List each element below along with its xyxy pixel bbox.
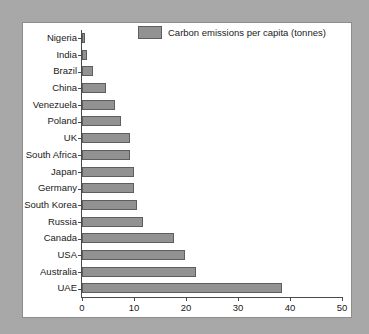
bar-china — [82, 83, 106, 93]
category-label-uk: UK — [64, 131, 77, 144]
category-label-south-africa: South Africa — [26, 148, 77, 161]
bar-russia — [82, 217, 143, 227]
bar-row: Nigeria — [82, 30, 342, 47]
category-label-japan: Japan — [51, 165, 77, 178]
x-axis-tick-label: 50 — [337, 302, 348, 313]
bar-usa — [82, 250, 185, 260]
bar-row: Japan — [82, 164, 342, 181]
bar-row: South Korea — [82, 197, 342, 214]
bar-india — [82, 50, 87, 60]
bar-canada — [82, 233, 174, 243]
bar-nigeria — [82, 33, 85, 43]
category-label-south-korea: South Korea — [24, 198, 77, 211]
category-label-poland: Poland — [47, 114, 77, 127]
x-axis-tick — [186, 297, 187, 301]
bar-row: Russia — [82, 214, 342, 231]
x-axis-tick — [290, 297, 291, 301]
bar-poland — [82, 116, 121, 126]
bar-germany — [82, 183, 134, 193]
bar-row: Germany — [82, 180, 342, 197]
bar-row: USA — [82, 247, 342, 264]
category-label-canada: Canada — [44, 231, 77, 244]
bar-chart-figure: Carbon emissions per capita (tonnes) 010… — [22, 22, 352, 318]
category-label-nigeria: Nigeria — [47, 31, 77, 44]
x-axis-tick-label: 0 — [79, 302, 84, 313]
category-label-china: China — [52, 81, 77, 94]
bar-row: Canada — [82, 230, 342, 247]
x-axis-tick — [238, 297, 239, 301]
category-label-uae: UAE — [57, 281, 77, 294]
category-label-venezuela: Venezuela — [33, 98, 77, 111]
bar-venezuela — [82, 100, 115, 110]
bar-uk — [82, 133, 130, 143]
x-axis-tick — [134, 297, 135, 301]
x-axis-tick — [82, 297, 83, 301]
bar-row: Brazil — [82, 63, 342, 80]
bar-south-africa — [82, 150, 130, 160]
bar-row: UK — [82, 130, 342, 147]
category-label-germany: Germany — [38, 181, 77, 194]
category-label-russia: Russia — [48, 215, 77, 228]
bar-row: China — [82, 80, 342, 97]
bar-row: South Africa — [82, 147, 342, 164]
bar-row: Venezuela — [82, 97, 342, 114]
bar-row: Australia — [82, 264, 342, 281]
category-label-usa: USA — [57, 248, 77, 261]
x-axis-tick-label: 20 — [181, 302, 192, 313]
x-axis-tick-label: 40 — [285, 302, 296, 313]
bar-row: UAE — [82, 280, 342, 297]
bar-brazil — [82, 66, 93, 76]
bar-row: India — [82, 47, 342, 64]
x-axis-line — [81, 297, 343, 298]
bar-japan — [82, 167, 134, 177]
bar-australia — [82, 267, 196, 277]
category-label-australia: Australia — [40, 265, 77, 278]
category-label-india: India — [56, 48, 77, 61]
bar-south-korea — [82, 200, 137, 210]
bar-uae — [82, 283, 282, 293]
bar-row: Poland — [82, 113, 342, 130]
x-axis-tick-label: 10 — [129, 302, 140, 313]
x-axis-tick — [342, 297, 343, 301]
x-axis-tick-label: 30 — [233, 302, 244, 313]
category-label-brazil: Brazil — [53, 64, 77, 77]
